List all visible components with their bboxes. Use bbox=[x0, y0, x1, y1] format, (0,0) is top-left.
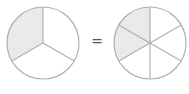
equals-sign: = bbox=[91, 34, 103, 48]
left-circle-thirds bbox=[7, 7, 79, 79]
right-circle-sixths bbox=[114, 7, 186, 79]
